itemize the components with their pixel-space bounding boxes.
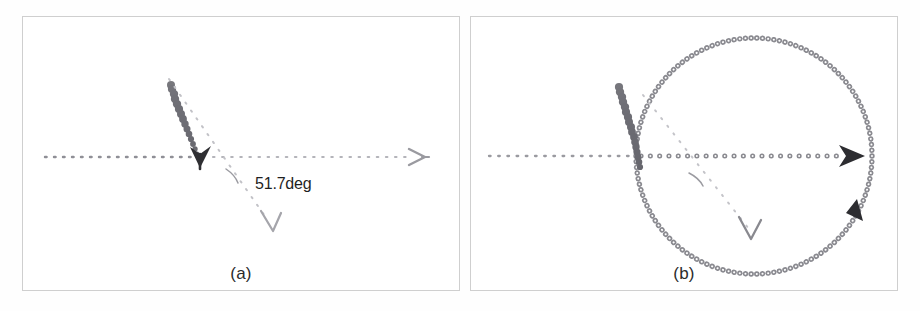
figure-panel-b: 51.7deg (b) (470, 16, 898, 291)
angle-arc-icon-a (226, 169, 238, 183)
panel-caption-b: (b) (471, 264, 897, 284)
ray-arrowhead-icon-a (261, 211, 281, 231)
panel-a-plot (23, 17, 459, 290)
axis-arrowhead-right-icon-b (839, 145, 865, 167)
angle-arc-icon-b (689, 173, 703, 186)
figure-root: 51.7deg (a) (0, 0, 920, 311)
incoming-trajectory-dots-a (167, 81, 200, 157)
panel-b-plot (471, 17, 897, 290)
angle-reference-ray-b (643, 95, 749, 229)
angle-reference-ray-a (169, 79, 267, 219)
panel-caption-a: (a) (23, 264, 459, 284)
trajectory-arrowhead-icon-a (190, 146, 211, 169)
ray-arrowhead-icon-b (739, 217, 761, 239)
angle-label-a: 51.7deg (255, 175, 311, 193)
figure-panel-a: 51.7deg (a) (22, 16, 460, 291)
axis-arrowhead-right-icon-a (409, 149, 429, 165)
